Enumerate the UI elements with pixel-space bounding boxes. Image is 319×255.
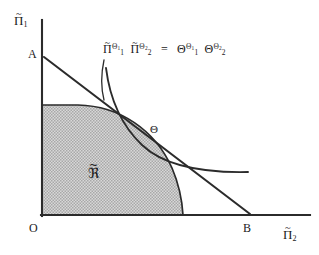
rhs2-subscript: 2 (222, 48, 226, 57)
tilde-accent: ~ (132, 38, 137, 48)
feasible-region-shape (42, 105, 183, 215)
x-axis-label: ~Π2 (283, 228, 296, 243)
equation-relation: = (161, 42, 168, 56)
equation-annotation: ~ΠΘ11 ~ΠΘ22 = ΘΘ11 ΘΘ22 (103, 43, 226, 56)
y-axis-label: ~Π1 (14, 14, 27, 29)
lhs1-subscript: 1 (120, 48, 124, 57)
x-axis-label-symbol: ~Π (283, 228, 292, 241)
tilde-accent: ~ (16, 9, 22, 19)
rhs1-base: Θ (177, 42, 186, 56)
point-theta-label: Θ (150, 124, 158, 135)
equation-lhs-factor-2: ~ΠΘ22 (130, 43, 151, 56)
point-b-label: B (243, 222, 251, 234)
point-a-label: A (28, 48, 37, 60)
lhs2-subscript: 2 (148, 48, 152, 57)
x-axis-label-subscript: 2 (292, 234, 296, 243)
equation-leader-line (102, 60, 104, 100)
y-axis-label-symbol: ~Π (14, 14, 23, 27)
lhs2-symbol: ~Π (130, 43, 139, 55)
tilde-accent: ~ (285, 223, 291, 233)
equation-rhs-factor-1: ΘΘ11 (177, 43, 198, 56)
equation-rhs-factor-2: ΘΘ22 (205, 43, 226, 56)
region-label: ~ℜ (88, 166, 99, 180)
lhs2-superscript: Θ2 (139, 42, 147, 51)
tilde-accent: ~ (105, 38, 110, 48)
equation-lhs-factor-1: ~ΠΘ11 (103, 43, 124, 56)
diagram-canvas (0, 0, 319, 255)
region-label-symbol: ~ℜ (88, 166, 99, 180)
rhs1-subscript: 1 (194, 48, 198, 57)
lhs1-symbol: ~Π (103, 43, 112, 55)
tilde-accent: ~ (89, 160, 98, 171)
origin-label: O (29, 222, 38, 234)
y-axis-label-subscript: 1 (23, 20, 27, 29)
rhs2-superscript: Θ2 (213, 42, 221, 51)
figure-container: ~Π1 ~Π2 O A B Θ ~ℜ ~ΠΘ11 ~ΠΘ22 = ΘΘ11 ΘΘ… (0, 0, 319, 255)
